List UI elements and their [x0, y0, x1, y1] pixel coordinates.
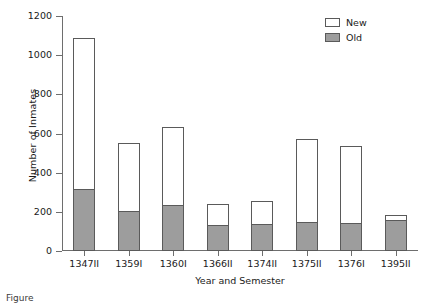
x-axis-tick — [84, 251, 85, 256]
bar-segment-new[interactable] — [296, 139, 318, 221]
bar-segment-old[interactable] — [385, 220, 407, 251]
x-axis-tick-label: 1366II — [203, 258, 233, 269]
x-axis-tick-label: 1360I — [160, 258, 187, 269]
legend-item-old: Old — [325, 32, 367, 43]
x-axis-tick-label: 1347II — [69, 258, 99, 269]
y-axis-tick-label: 0 — [46, 245, 52, 256]
y-axis-tick: 0 — [56, 251, 62, 252]
legend-label-old: Old — [346, 32, 362, 43]
chart-legend: New Old — [325, 17, 367, 47]
bar-stack[interactable] — [162, 127, 184, 251]
y-axis-tick-label: 400 — [34, 167, 52, 178]
bar-stack[interactable] — [207, 204, 229, 251]
bar-series-container: 1347II1359I1360I1366II1374II1375II1376I1… — [62, 16, 418, 251]
x-axis-tick — [351, 251, 352, 256]
x-axis-tick — [218, 251, 219, 256]
bar-segment-old[interactable] — [207, 225, 229, 251]
chart-figure: Number of Inmates 020040060080010001200 … — [0, 0, 434, 304]
bar-stack[interactable] — [118, 143, 140, 251]
legend-label-new: New — [346, 17, 367, 28]
bar-stack[interactable] — [251, 201, 273, 251]
x-axis-tick-label: 1359I — [115, 258, 142, 269]
bar-stack[interactable] — [296, 139, 318, 251]
bar-segment-old[interactable] — [162, 205, 184, 251]
bar-segment-new[interactable] — [162, 127, 184, 205]
x-axis-tick-label: 1376I — [338, 258, 365, 269]
y-axis-tick-label: 1200 — [28, 10, 52, 21]
bar-stack[interactable] — [340, 146, 362, 251]
bar-segment-old[interactable] — [296, 222, 318, 251]
x-axis-tick-label: 1395II — [381, 258, 411, 269]
y-axis-tick-label: 200 — [34, 206, 52, 217]
bar-stack[interactable] — [73, 38, 95, 251]
bar-segment-new[interactable] — [340, 146, 362, 222]
bar-segment-new[interactable] — [251, 201, 273, 224]
legend-swatch-old-icon — [325, 33, 340, 42]
bar-segment-new[interactable] — [73, 38, 95, 190]
x-axis-tick-label: 1375II — [292, 258, 322, 269]
figure-caption: Figure — [6, 293, 33, 303]
y-axis-tick-label: 800 — [34, 88, 52, 99]
bar-segment-old[interactable] — [340, 223, 362, 251]
x-axis-tick — [307, 251, 308, 256]
bar-segment-old[interactable] — [251, 224, 273, 251]
x-axis-tick — [173, 251, 174, 256]
x-axis-tick-label: 1374II — [247, 258, 277, 269]
legend-item-new: New — [325, 17, 367, 28]
x-axis-tick — [129, 251, 130, 256]
bar-segment-new[interactable] — [118, 143, 140, 211]
y-axis-tick-label: 1000 — [28, 49, 52, 60]
bar-segment-old[interactable] — [118, 211, 140, 251]
plot-area: 020040060080010001200 1347II1359I1360I13… — [62, 16, 418, 251]
y-axis-tick-label: 600 — [34, 128, 52, 139]
x-axis-tick — [396, 251, 397, 256]
bar-segment-new[interactable] — [207, 204, 229, 225]
x-axis-tick — [262, 251, 263, 256]
x-axis-title: Year and Semester — [62, 275, 418, 286]
bar-segment-old[interactable] — [73, 189, 95, 251]
bar-stack[interactable] — [385, 215, 407, 251]
legend-swatch-new-icon — [325, 18, 340, 27]
